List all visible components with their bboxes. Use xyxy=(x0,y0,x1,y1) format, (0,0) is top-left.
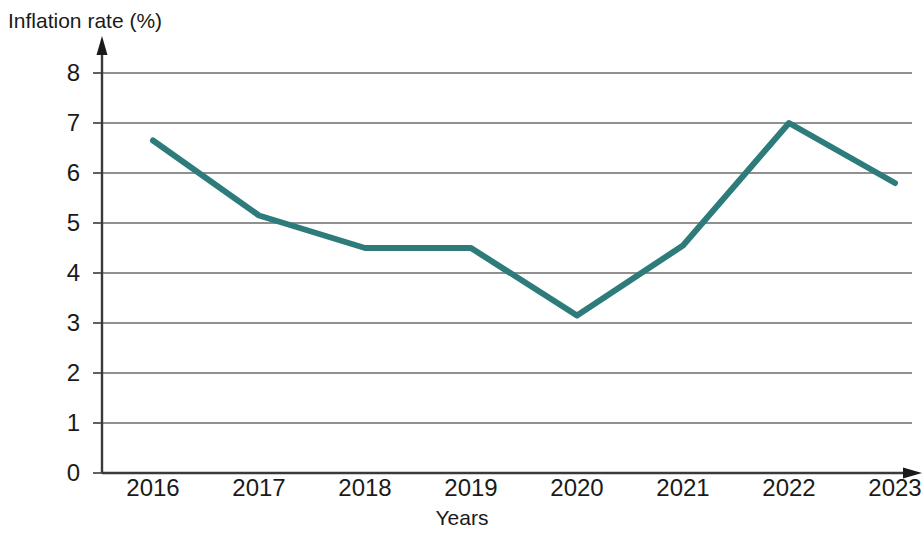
line-chart: Inflation rate (%) 012345678 20162017201… xyxy=(0,0,924,535)
y-tick-label: 4 xyxy=(40,261,80,285)
x-tick-label: 2023 xyxy=(845,476,924,500)
y-tick-label: 1 xyxy=(40,411,80,435)
y-tick-label: 2 xyxy=(40,361,80,385)
data-series-line xyxy=(153,123,895,316)
x-tick-label: 2016 xyxy=(103,476,203,500)
y-tick-label: 0 xyxy=(40,461,80,485)
y-tick-label: 3 xyxy=(40,311,80,335)
x-tick-label: 2019 xyxy=(421,476,521,500)
x-tick-label: 2017 xyxy=(209,476,309,500)
y-tick-label: 7 xyxy=(40,111,80,135)
x-axis-title: Years xyxy=(0,505,924,531)
y-tick-label: 5 xyxy=(40,211,80,235)
y-tick-label: 6 xyxy=(40,161,80,185)
y-tick-marks-group xyxy=(93,73,102,473)
y-axis-arrow-icon xyxy=(97,36,108,55)
x-tick-label: 2021 xyxy=(633,476,733,500)
x-tick-label: 2020 xyxy=(527,476,627,500)
x-tick-label: 2018 xyxy=(315,476,415,500)
x-tick-label: 2022 xyxy=(739,476,839,500)
y-tick-label: 8 xyxy=(40,61,80,85)
chart-plot-area xyxy=(0,0,924,535)
